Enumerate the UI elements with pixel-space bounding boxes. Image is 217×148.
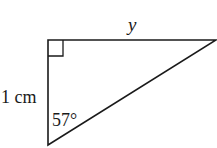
triangle-diagram: y 1 cm 57°	[0, 0, 217, 148]
angle-label: 57°	[52, 110, 77, 130]
left-side-label: 1 cm	[1, 87, 37, 107]
top-side-label: y	[126, 14, 137, 35]
right-angle-marker	[48, 40, 63, 56]
